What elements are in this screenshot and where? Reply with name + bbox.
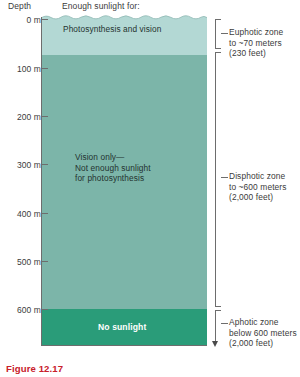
aphotic-annotation-line-3: (2,000 feet) [229, 338, 297, 349]
depth-tick-600 [41, 309, 48, 310]
depth-tick-100 [41, 68, 48, 69]
aphotic-zone-caption: No sunlight [98, 322, 146, 333]
depth-label-300: 300 m [5, 160, 41, 170]
depth-tick-200 [41, 116, 48, 117]
disphotic-bracket-stem [221, 177, 228, 178]
depth-tick-300 [41, 164, 48, 165]
euphotic-zone-caption: Photosynthesis and vision [63, 24, 161, 35]
disphotic-annotation-line-1: Disphotic zone [229, 171, 287, 182]
aphotic-annotation: Aphotic zone below 600 meters (2,000 fee… [229, 317, 297, 349]
depth-tick-400 [41, 213, 48, 214]
zone-annotations: Euphotic zone to ~70 meters (230 feet) D… [207, 0, 300, 377]
disphotic-annotation-line-3: (2,000 feet) [229, 192, 287, 203]
disphotic-caption-line-1: Vision only— [75, 152, 151, 163]
figure-caption: Figure 12.17 [6, 363, 63, 374]
depth-label-200: 200 m [5, 112, 41, 122]
sunlight-column-header: Enough sunlight for: [62, 1, 140, 11]
sea-surface-waves-icon [41, 13, 207, 21]
euphotic-bracket [215, 19, 221, 49]
downward-arrow-icon [212, 341, 218, 347]
depth-label-500: 500 m [5, 257, 41, 267]
aphotic-annotation-line-1: Aphotic zone [229, 317, 297, 328]
euphotic-annotation-line-3: (230 feet) [229, 48, 283, 59]
euphotic-annotation: Euphotic zone to ~70 meters (230 feet) [229, 27, 283, 59]
depth-tick-0 [41, 19, 48, 20]
depth-label-400: 400 m [5, 209, 41, 219]
euphotic-annotation-line-1: Euphotic zone [229, 27, 283, 38]
disphotic-bracket [215, 52, 221, 307]
euphotic-annotation-line-2: to ~70 meters [229, 38, 283, 49]
disphotic-annotation: Disphotic zone to ~600 meters (2,000 fee… [229, 171, 287, 203]
euphotic-bracket-stem [221, 33, 228, 34]
disphotic-caption-line-3: for photosynthesis [75, 173, 151, 184]
disphotic-zone-caption: Vision only— Not enough sunlight for pho… [75, 152, 151, 184]
aphotic-annotation-line-2: below 600 meters [229, 328, 297, 339]
depth-scale: 0 m 100 m 200 m 300 m 400 m 500 m 600 m [0, 0, 41, 377]
depth-label-0: 0 m [5, 15, 41, 25]
depth-tick-500 [41, 261, 48, 262]
depth-label-600: 600 m [5, 305, 41, 315]
disphotic-annotation-line-2: to ~600 meters [229, 182, 287, 193]
aphotic-bracket-stem [221, 323, 228, 324]
disphotic-caption-line-2: Not enough sunlight [75, 163, 151, 174]
depth-label-100: 100 m [5, 64, 41, 74]
aphotic-bracket [215, 310, 221, 342]
